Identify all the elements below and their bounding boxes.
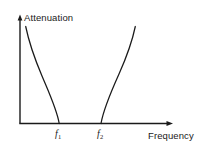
upper-skirt-curve — [101, 27, 135, 124]
x-tick-label-f1: f1 — [55, 128, 61, 140]
attenuation-vs-frequency-figure: Attenuation Frequency f1 f2 — [0, 0, 203, 147]
arrow-up-icon — [18, 15, 23, 21]
tick-f1-subscript: 1 — [58, 133, 61, 140]
lower-skirt-curve — [26, 27, 60, 124]
tick-f2-subscript: 2 — [100, 133, 103, 140]
arrow-right-icon — [167, 121, 174, 126]
x-axis-title: Frequency — [148, 130, 194, 141]
x-tick-label-f2: f2 — [97, 128, 103, 140]
y-axis-title: Attenuation — [24, 12, 73, 23]
